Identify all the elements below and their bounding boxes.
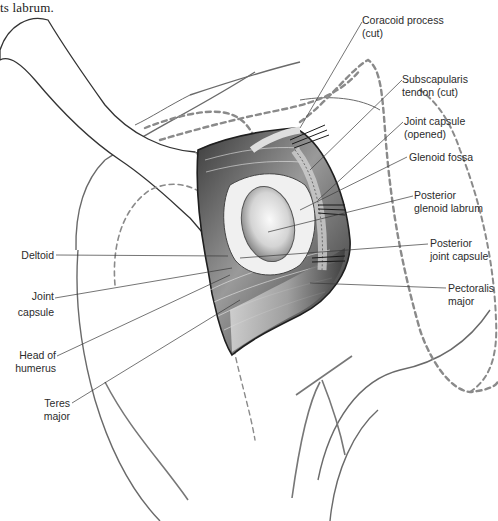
label-posterior-joint-capsule: Posterior joint capsule [430, 237, 488, 263]
label-deltoid: Deltoid [10, 249, 54, 262]
label-joint-capsule-opened: Joint capsule (opened) [404, 115, 465, 141]
label-joint-capsule: Joint capsule [6, 290, 54, 319]
label-glenoid-fossa: Glenoid fossa [409, 151, 473, 164]
label-posterior-glenoid-labrum: Posterior glenoid labrum [414, 189, 483, 215]
anatomical-illustration: ts labrum. [0, 0, 498, 521]
surgical-exposure [197, 125, 350, 355]
label-coracoid-process: Coracoid process (cut) [362, 14, 444, 40]
label-pectoralis-major: Pectoralis major [448, 282, 494, 308]
label-subscapularis-tendon: Subscapularis tendon (cut) [402, 73, 468, 99]
label-head-of-humerus: Head of humerus [4, 349, 56, 375]
label-teres-major: Teres major [20, 397, 70, 423]
drain-lines [105, 356, 352, 500]
